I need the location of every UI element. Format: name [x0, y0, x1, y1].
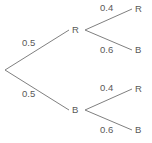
- edge-label-b-to-b: 0.6: [100, 125, 113, 135]
- probability-tree-diagram: 0.5 0.5 R B 0.4 0.6 R B 0.4 0.6 R B: [0, 0, 152, 143]
- node-label-level1-b: B: [72, 105, 78, 115]
- branch-root-to-r: [5, 30, 69, 70]
- edge-label-root-to-r: 0.5: [22, 38, 35, 48]
- edge-label-root-to-b: 0.5: [22, 89, 35, 99]
- edge-label-r-to-r: 0.4: [100, 3, 113, 13]
- branch-root-to-b: [5, 70, 69, 110]
- node-label-level2-r-b: B: [135, 45, 141, 55]
- edge-label-b-to-r: 0.4: [100, 83, 113, 93]
- node-label-level1-r: R: [72, 25, 79, 35]
- node-label-level2-b-r: R: [135, 84, 142, 94]
- node-label-level2-r-r: R: [135, 4, 142, 14]
- node-label-level2-b-b: B: [135, 125, 141, 135]
- tree-branches-svg: [0, 0, 152, 143]
- edge-label-r-to-b: 0.6: [100, 45, 113, 55]
